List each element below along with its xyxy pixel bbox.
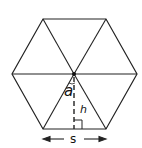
center-point <box>72 72 76 76</box>
right-angle-marker <box>74 120 82 129</box>
side-label: s <box>70 132 76 146</box>
angle-label: a <box>64 82 73 100</box>
height-label: h <box>80 103 87 116</box>
hexagon-diagram: a h s <box>0 0 142 148</box>
